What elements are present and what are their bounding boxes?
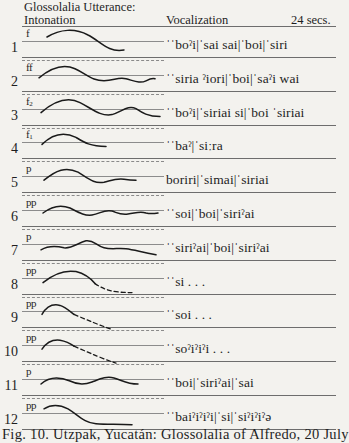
dynamic-marker: f bbox=[26, 27, 29, 40]
row-number: 5 bbox=[0, 175, 18, 191]
pitch-reference-line bbox=[22, 345, 164, 346]
vocalization-text: ˈˈboˀi|ˈsai sai|ˈboi|ˈsiri bbox=[166, 37, 288, 53]
row-bottom-rule bbox=[22, 260, 336, 261]
pitch-reference-line bbox=[22, 244, 164, 245]
dynamic-marker-letter: p bbox=[26, 230, 31, 242]
dynamic-marker: f1 bbox=[26, 128, 32, 141]
intonation-contour bbox=[42, 305, 74, 315]
row-separator-dashed bbox=[22, 398, 164, 399]
row-bottom-rule bbox=[22, 192, 336, 193]
row-number: 7 bbox=[0, 243, 18, 259]
vocalization-text: ˈˈbaˀ|ˈsiːra bbox=[166, 138, 223, 154]
pitch-reference-line bbox=[22, 75, 164, 76]
vocalization-text: ˈˈsiriˀai|ˈboi|ˈsiriˀai bbox=[166, 240, 270, 256]
dynamic-marker: p bbox=[26, 365, 31, 378]
row-separator-dashed bbox=[22, 229, 164, 230]
dynamic-marker-letter: pp bbox=[26, 196, 36, 208]
dynamic-marker: pp bbox=[26, 297, 36, 310]
dynamic-marker: ff bbox=[26, 61, 32, 74]
row-bottom-rule bbox=[22, 361, 336, 362]
row-number: 10 bbox=[0, 344, 18, 360]
pitch-reference-line bbox=[22, 109, 164, 110]
row-bottom-rule bbox=[22, 158, 336, 159]
vocalization-text: ˈˈsi . . . bbox=[166, 274, 205, 290]
row-separator-dashed bbox=[22, 330, 164, 331]
row-bottom-rule bbox=[22, 57, 336, 58]
row-number: 2 bbox=[0, 74, 18, 90]
pitch-reference-line bbox=[22, 311, 164, 312]
row-number: 4 bbox=[0, 141, 18, 157]
dynamic-marker-letter: pp bbox=[26, 331, 36, 343]
vocalization-text: boriri|ˈsimai|ˈsiriai bbox=[166, 172, 269, 188]
pitch-reference-line bbox=[22, 278, 164, 279]
dynamic-marker-subscript: 1 bbox=[29, 133, 32, 141]
row-number: 8 bbox=[0, 277, 18, 293]
row-separator-dashed bbox=[22, 364, 164, 365]
intonation-contour bbox=[41, 241, 156, 255]
row-bottom-rule bbox=[22, 294, 336, 295]
dynamic-marker: pp bbox=[26, 331, 36, 344]
dynamic-marker: f2 bbox=[26, 95, 32, 108]
intonation-contour bbox=[44, 405, 132, 424]
row-separator-dashed bbox=[22, 128, 164, 129]
row-bottom-rule bbox=[22, 327, 336, 328]
dynamic-marker-letter: p bbox=[26, 162, 31, 174]
dynamic-marker: p bbox=[26, 230, 31, 243]
row-bottom-rule bbox=[22, 395, 336, 396]
dynamic-marker: pp bbox=[26, 196, 36, 209]
dynamic-marker: pp bbox=[26, 264, 36, 277]
dynamic-marker-letter: pp bbox=[26, 399, 36, 411]
vocalization-text: ˈˈboi|ˈsiriˀai|ˈsai bbox=[166, 375, 254, 391]
dynamic-marker: pp bbox=[26, 399, 36, 412]
row-separator-dashed bbox=[22, 195, 164, 196]
row-bottom-rule bbox=[22, 91, 336, 92]
vocalization-text: ˈˈbaiˀiˀiˀi|ˈsi|ˈsiˀiˀiˀə bbox=[166, 409, 271, 425]
dynamic-marker-letter: p bbox=[26, 365, 31, 377]
dynamic-marker-letter: ff bbox=[26, 61, 32, 73]
dynamic-marker-subscript: 2 bbox=[29, 100, 32, 108]
row-bottom-rule bbox=[22, 125, 336, 126]
row-separator-dashed bbox=[22, 161, 164, 162]
header-rule bbox=[22, 26, 336, 27]
intonation-contour-fade bbox=[95, 284, 132, 293]
vocalization-text: ˈˈsoi . . . bbox=[166, 307, 212, 323]
vocalization-text: ˈˈsiria ˀiori|ˈboi|ˈsaˀi wai bbox=[166, 71, 299, 87]
vocalization-text: ˈˈsoi|ˈboi|ˈsiriˀai bbox=[166, 206, 255, 222]
row-number: 1 bbox=[0, 40, 18, 56]
dynamic-marker-letter: pp bbox=[26, 297, 36, 309]
pitch-reference-line bbox=[22, 142, 164, 143]
dynamic-marker-letter: pp bbox=[26, 264, 36, 276]
row-number: 6 bbox=[0, 209, 18, 225]
row-separator-dashed bbox=[22, 263, 164, 264]
vocalization-text: ˈˈboˀi|ˈsiriai si|ˈboi ˈsiriai bbox=[166, 105, 304, 121]
row-number: 9 bbox=[0, 310, 18, 326]
row-separator-dashed bbox=[22, 94, 164, 95]
row-separator-dashed bbox=[22, 297, 164, 298]
intonation-contour bbox=[42, 134, 106, 146]
row-number: 3 bbox=[0, 108, 18, 124]
row-bottom-rule bbox=[22, 226, 336, 227]
pitch-reference-line bbox=[22, 210, 164, 211]
pitch-reference-line bbox=[22, 41, 164, 42]
pitch-reference-line bbox=[22, 413, 164, 414]
figure-caption: Fig. 10. Utzpak, Yucatán: Glossolalia of… bbox=[2, 426, 349, 443]
row-number: 11 bbox=[0, 378, 18, 394]
header-title: Glossolalia Utterance: Intonation bbox=[24, 1, 135, 27]
dynamic-marker-letter: f bbox=[26, 27, 29, 39]
pitch-reference-line bbox=[22, 176, 164, 177]
dynamic-marker: p bbox=[26, 162, 31, 175]
row-separator-dashed bbox=[22, 60, 164, 61]
pitch-reference-line bbox=[22, 379, 164, 380]
vocalization-text: ˈˈsoˀiˀiˀi . . . bbox=[166, 341, 230, 357]
